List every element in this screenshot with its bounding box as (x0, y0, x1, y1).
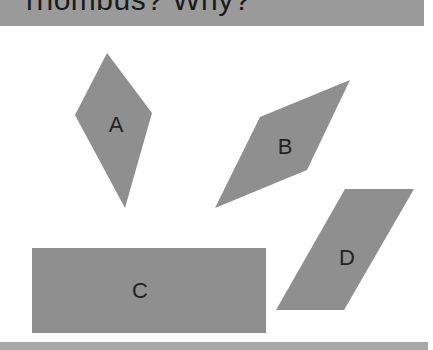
shape-b-label: B (278, 134, 293, 160)
shapes-canvas (0, 0, 433, 350)
shape-c-rectangle (32, 248, 266, 333)
shape-a-label: A (109, 112, 124, 138)
bottom-band (0, 342, 428, 350)
shape-d-label: D (339, 245, 355, 271)
shape-c-label: C (132, 278, 148, 304)
